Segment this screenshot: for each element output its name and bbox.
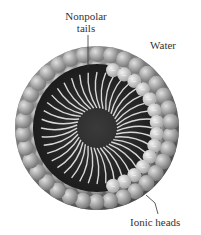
svg-text:−: − xyxy=(154,130,159,139)
svg-text:−: − xyxy=(111,66,116,75)
svg-text:−: − xyxy=(141,163,146,172)
svg-text:−: − xyxy=(132,77,137,86)
svg-text:−: − xyxy=(152,142,157,151)
label-nonpolar-line1: Nonpolar xyxy=(56,10,116,22)
label-water: Water xyxy=(150,39,176,51)
svg-text:−: − xyxy=(122,71,127,80)
svg-text:−: − xyxy=(147,95,152,104)
svg-text:−: − xyxy=(147,153,152,162)
svg-text:−: − xyxy=(111,182,116,191)
svg-text:−: − xyxy=(141,85,146,94)
label-nonpolar-line2: tails xyxy=(56,22,116,34)
label-ionic-heads: Ionic heads xyxy=(130,216,180,228)
svg-text:−: − xyxy=(132,171,137,180)
svg-text:−: − xyxy=(154,118,159,127)
label-nonpolar-tails: Nonpolar tails xyxy=(56,10,116,34)
svg-text:−: − xyxy=(122,177,127,186)
micelle-diagram: −−−−−−−−−−−−−− xyxy=(0,0,201,235)
svg-text:−: − xyxy=(152,106,157,115)
ionic-leader-line xyxy=(146,195,158,214)
